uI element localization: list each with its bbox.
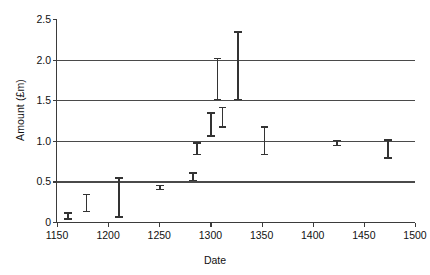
errorbar-cap-lower [261,154,269,156]
x-tick-label: 1150 [46,229,69,241]
gridline [57,141,415,142]
y-tick-mark [53,181,57,182]
errorbar-cap-upper [214,58,222,60]
x-tick-label: 1200 [96,229,119,241]
x-axis-title: Date [0,254,430,266]
x-tick-mark [262,223,263,227]
errorbar-cap-upper [115,177,123,179]
errorbar-cap-lower [384,157,392,159]
errorbar-cap-upper [156,185,164,187]
errorbar-cap-upper [83,194,91,196]
errorbar-cap-lower [189,180,197,182]
gridline [57,60,415,61]
gridline [57,100,415,101]
errorbar-stem [222,107,224,128]
x-tick-label: 1350 [250,229,273,241]
errorbar-cap-lower [115,216,123,218]
errorbar-cap-lower [193,154,201,156]
errorbar-cap-upper [207,112,215,114]
errorbar-cap-lower [207,135,215,137]
x-tick-mark [210,223,211,227]
y-tick-label: 2.5 [36,13,51,25]
errorbar-stem [210,112,212,136]
x-tick-mark [108,223,109,227]
chart-figure: Amount (£m) 00.51.01.52.02.5 11501200125… [0,0,430,275]
y-tick-mark [53,19,57,20]
y-tick-label: 0.5 [36,175,51,187]
y-tick-label: 1.0 [36,135,51,147]
y-tick-label: 1.5 [36,94,51,106]
x-tick-label: 1300 [199,229,222,241]
errorbar-cap-upper [234,31,242,33]
y-tick-mark [53,100,57,101]
x-tick-mark [313,223,314,227]
y-tick-label: 2.0 [36,54,51,66]
y-tick-mark [53,60,57,61]
x-tick-label: 1500 [403,229,426,241]
errorbar-cap-lower [333,145,341,147]
errorbar-cap-lower [234,99,242,101]
errorbar-cap-upper [261,126,269,128]
plot-area [57,19,415,222]
x-tick-label: 1400 [301,229,324,241]
y-axis-ticks: 00.51.01.52.02.5 [0,19,57,222]
errorbar-cap-lower [214,99,222,101]
errorbar-cap-upper [333,140,341,142]
errorbar-cap-lower [219,126,227,128]
errorbar-cap-upper [193,142,201,144]
errorbar-cap-lower [156,189,164,191]
errorbar-stem [387,139,389,158]
x-tick-mark [415,223,416,227]
x-tick-mark [57,223,58,227]
y-tick-mark [53,141,57,142]
errorbar-cap-lower [64,218,72,220]
x-tick-mark [364,223,365,227]
gridline [57,181,415,182]
errorbar-cap-lower [83,211,91,213]
errorbar-cap-upper [189,172,197,174]
errorbar-cap-upper [64,212,72,214]
x-tick-label: 1450 [352,229,375,241]
errorbar-stem [217,58,219,100]
x-tick-mark [159,223,160,227]
y-tick-label: 0 [45,216,51,228]
errorbar-cap-upper [219,107,227,109]
errorbar-cap-upper [384,139,392,141]
x-tick-label: 1250 [148,229,171,241]
errorbar-stem [86,194,88,213]
errorbar-stem [118,177,120,218]
x-axis-ticks: 11501200125013001350140014501500 [57,223,415,253]
errorbar-stem [237,31,239,100]
errorbar-stem [264,126,266,155]
